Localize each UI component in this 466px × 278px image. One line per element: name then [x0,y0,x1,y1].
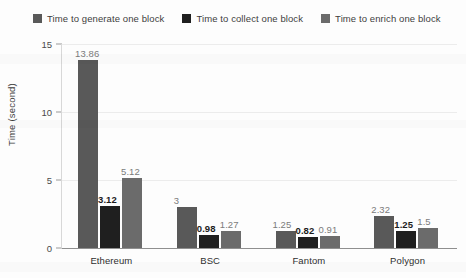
legend-label-collect: Time to collect one block [196,13,303,24]
bar-fantom-collect[interactable]: 0.82 [298,44,318,248]
bar-value-ethereum-collect: 3.12 [98,194,117,205]
x-tick-label-bsc: BSC [161,255,260,266]
bar-rect[interactable] [100,206,120,248]
legend-label-enrich: Time to enrich one block [335,13,441,24]
bar-fantom-generate[interactable]: 1.25 [276,44,296,248]
legend-item-collect: Time to collect one block [182,13,303,24]
x-tick-label-ethereum: Ethereum [62,255,161,266]
bar-value-polygon-collect: 1.25 [394,219,413,230]
bar-ethereum-enrich[interactable]: 5.12 [122,44,142,248]
bar-bsc-generate[interactable]: 3 [177,44,197,248]
bar-value-polygon-enrich: 1.5 [417,216,431,227]
bar-rect[interactable] [199,235,219,248]
legend-swatch-enrich-icon [321,14,330,23]
y-tick-label-0: 0 [47,243,52,254]
bar-group-fantom: 1.250.820.91Fantom [260,44,359,248]
legend-item-generate: Time to generate one block [33,13,164,24]
bar-value-bsc-enrich: 1.27 [220,219,239,230]
bar-polygon-enrich[interactable]: 1.5 [418,44,438,248]
bar-rect[interactable] [396,231,416,248]
bar-value-bsc-collect: 0.98 [197,223,216,234]
bar-value-fantom-generate: 1.25 [273,219,292,230]
bar-value-ethereum-generate: 13.86 [75,48,99,59]
bar-rect[interactable] [276,231,296,248]
bar-group-ethereum: 13.863.125.12Ethereum [62,44,161,248]
legend-item-enrich: Time to enrich one block [321,13,441,24]
bar-bsc-enrich[interactable]: 1.27 [221,44,241,248]
bar-rect[interactable] [122,178,142,248]
bar-rect[interactable] [177,207,197,248]
legend-label-generate: Time to generate one block [47,13,164,24]
bar-rect[interactable] [78,60,98,248]
x-tick-label-fantom: Fantom [260,255,359,266]
bar-rect[interactable] [298,237,318,248]
y-tick-label-15: 15 [41,39,52,50]
bar-group-polygon: 2.321.251.5Polygon [358,44,457,248]
bar-polygon-generate[interactable]: 2.32 [374,44,394,248]
bar-rect[interactable] [418,228,438,248]
y-tick-label-10: 10 [41,107,52,118]
bar-group-bsc: 30.981.27BSC [161,44,260,248]
bar-rect[interactable] [374,216,394,248]
bar-polygon-collect[interactable]: 1.25 [396,44,416,248]
x-tick-label-polygon: Polygon [358,255,457,266]
bar-value-polygon-generate: 2.32 [371,204,390,215]
bar-value-fantom-enrich: 0.91 [319,224,338,235]
y-tick-label-5: 5 [47,175,52,186]
bar-rect[interactable] [320,236,340,248]
y-axis: 15 10 5 0 [0,44,62,248]
bar-value-fantom-collect: 0.82 [296,225,315,236]
bar-value-bsc-generate: 3 [174,195,179,206]
bar-bsc-collect[interactable]: 0.98 [199,44,219,248]
bar-rect[interactable] [221,231,241,248]
bar-ethereum-collect[interactable]: 3.12 [100,44,120,248]
bar-fantom-enrich[interactable]: 0.91 [320,44,340,248]
legend-swatch-generate-icon [33,14,42,23]
legend-swatch-collect-icon [182,14,191,23]
chart-screenshot: Time to generate one block Time to colle… [0,0,466,278]
bar-value-ethereum-enrich: 5.12 [121,166,140,177]
chart-legend: Time to generate one block Time to colle… [33,13,459,24]
plot-area: 13.863.125.12Ethereum30.981.27BSC1.250.8… [62,44,457,248]
bar-ethereum-generate[interactable]: 13.86 [78,44,98,248]
